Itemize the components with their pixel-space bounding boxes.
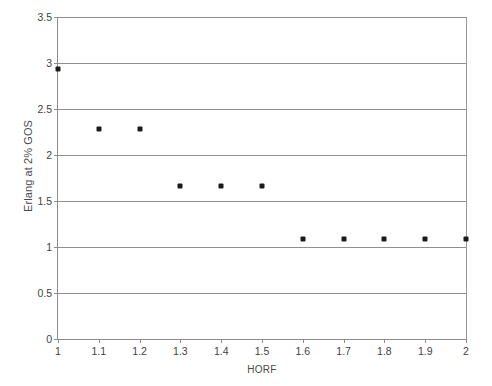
x-tick-mark — [303, 339, 304, 343]
x-tick-mark — [466, 339, 467, 343]
data-point — [423, 236, 428, 241]
data-point — [341, 236, 346, 241]
y-tick-mark — [54, 155, 58, 156]
data-point — [137, 127, 142, 132]
chart-figure: Erlang at 2% GOS 00.511.522.533.5 11.11.… — [0, 0, 492, 386]
x-tick-label: 1.9 — [418, 345, 433, 357]
x-tick-label: 2 — [463, 345, 469, 357]
y-tick-label: 3.5 — [37, 11, 52, 23]
x-axis-title: HORF — [57, 364, 467, 375]
gridline — [58, 155, 466, 156]
data-point — [219, 184, 224, 189]
gridline — [58, 109, 466, 110]
y-tick-mark — [54, 247, 58, 248]
x-tick-mark — [344, 339, 345, 343]
x-tick-label: 1.6 — [295, 345, 310, 357]
x-tick-label: 1.5 — [255, 345, 270, 357]
x-tick-mark — [425, 339, 426, 343]
x-tick-label: 1.2 — [132, 345, 147, 357]
x-tick-label: 1.1 — [91, 345, 106, 357]
x-tick-mark — [58, 339, 59, 343]
y-tick-mark — [54, 109, 58, 110]
data-point — [382, 236, 387, 241]
data-point — [300, 236, 305, 241]
data-point — [464, 236, 469, 241]
y-tick-mark — [54, 293, 58, 294]
plot-area: 00.511.522.533.5 11.11.21.31.41.51.61.71… — [57, 17, 467, 340]
gridline — [58, 247, 466, 248]
y-tick-label: 1 — [46, 241, 52, 253]
gridline — [58, 293, 466, 294]
y-tick-mark — [54, 201, 58, 202]
y-axis-title: Erlang at 2% GOS — [22, 96, 34, 236]
gridline — [58, 201, 466, 202]
x-tick-label: 1.8 — [377, 345, 392, 357]
x-tick-label: 1.4 — [214, 345, 229, 357]
y-tick-mark — [54, 17, 58, 18]
data-point — [96, 127, 101, 132]
gridline — [58, 17, 466, 18]
data-point — [260, 184, 265, 189]
x-tick-label: 1.7 — [336, 345, 351, 357]
data-point — [56, 67, 61, 72]
gridline — [58, 63, 466, 64]
x-tick-mark — [221, 339, 222, 343]
y-tick-mark — [54, 63, 58, 64]
y-tick-label: 1.5 — [37, 195, 52, 207]
y-tick-label: 2.5 — [37, 103, 52, 115]
x-tick-label: 1.3 — [173, 345, 188, 357]
x-tick-mark — [99, 339, 100, 343]
x-tick-mark — [262, 339, 263, 343]
y-tick-label: 0.5 — [37, 287, 52, 299]
y-tick-label: 2 — [46, 149, 52, 161]
data-point — [178, 184, 183, 189]
y-tick-label: 0 — [46, 333, 52, 345]
x-tick-mark — [140, 339, 141, 343]
x-tick-label: 1 — [55, 345, 61, 357]
x-tick-mark — [180, 339, 181, 343]
x-tick-mark — [384, 339, 385, 343]
y-tick-label: 3 — [46, 57, 52, 69]
